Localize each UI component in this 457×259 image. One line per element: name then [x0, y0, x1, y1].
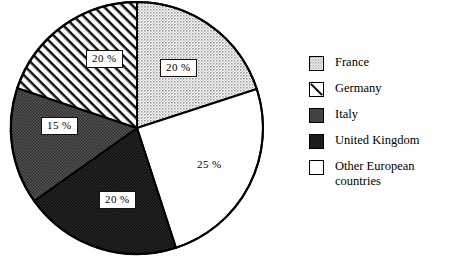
legend-label-germany: Germany — [335, 81, 382, 96]
pie-chart-graphic: 20 % 20 % 15 % 20 % 25 % — [0, 0, 285, 259]
legend-label-france: France — [335, 55, 369, 70]
legend-item-italy: Italy — [309, 107, 455, 123]
white-empty-swatch-icon — [309, 160, 324, 175]
slice-label-italy: 15 % — [41, 117, 78, 135]
slice-label-united-kingdom: 20 % — [99, 191, 136, 209]
legend-item-germany: Germany — [309, 81, 455, 97]
legend-label-line-1: Other European — [335, 159, 414, 173]
legend-item-france: France — [309, 55, 455, 71]
legend-label-line-2: countries — [335, 174, 414, 189]
dark-gray-checker-swatch-icon — [309, 108, 324, 123]
slice-label-france: 20 % — [160, 59, 197, 77]
near-black-checker-swatch-icon — [309, 134, 324, 149]
slice-label-germany: 20 % — [86, 50, 123, 68]
legend-label-italy: Italy — [335, 107, 358, 122]
light-gray-dots-swatch-icon — [309, 56, 324, 71]
legend: France Germany Italy — [309, 55, 455, 188]
legend-label-other-european-countries: Other European countries — [335, 159, 414, 188]
legend-item-other-european-countries: Other European countries — [309, 159, 455, 188]
legend-label-united-kingdom: United Kingdom — [335, 133, 419, 148]
pie-chart-figure: 20 % 20 % 15 % 20 % 25 % France Germany — [0, 0, 457, 259]
diagonal-line-swatch-icon — [309, 82, 324, 97]
slice-label-other-european-countries: 25 % — [197, 158, 222, 171]
legend-item-united-kingdom: United Kingdom — [309, 133, 455, 149]
